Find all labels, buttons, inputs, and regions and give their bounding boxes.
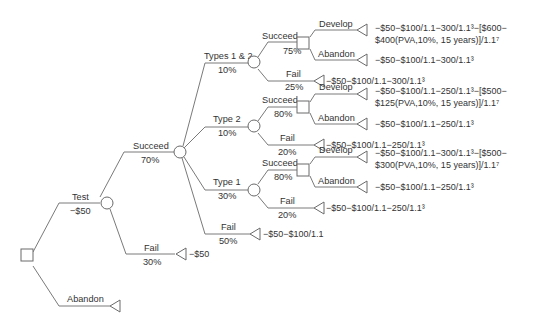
payoff-t1-develop-2: $300(PVA,10%, 15 years)]/1.1⁷: [375, 160, 499, 170]
decision-square-icon: [297, 164, 309, 176]
branch-prob-succeed-t1: 80%: [274, 172, 292, 182]
terminal-triangle-icon: [357, 54, 367, 66]
branch-prob-types-1-2: 10%: [218, 65, 236, 75]
decision-square-icon: [297, 101, 309, 113]
terminal-triangle-icon: [314, 202, 324, 214]
payoff-test-fail: −$50: [189, 249, 209, 259]
branch-prob-fail-t12: 25%: [285, 82, 303, 92]
branch-prob-fail-t1: 20%: [278, 210, 296, 220]
succeed-chance-node: [174, 63, 250, 234]
branch-value-test-cost: −$50: [70, 206, 91, 216]
branch-prob-fail-t2: 20%: [278, 147, 296, 157]
terminal-triangle-icon: [357, 24, 367, 36]
terminal-triangle-icon: [357, 181, 367, 193]
branch-label-develop-t2: Develop: [319, 82, 353, 92]
chance-circle-icon: [101, 197, 113, 209]
payoff-t2-abandon: −$50−$100/1.1−250/1.1³: [375, 119, 474, 129]
branch-label-fail-t1: Fail: [280, 196, 295, 206]
branch-label-types-1-2: Types 1 & 2: [204, 51, 253, 61]
branch-label-succeed-t2: Succeed: [262, 95, 298, 105]
branch-label-abandon-root: Abandon: [67, 294, 104, 304]
branch-label-fail-test: Fail: [144, 243, 159, 253]
branch-label-fail-type: Fail: [221, 222, 236, 232]
branch-label-abandon-t2: Abandon: [318, 113, 355, 123]
branch-label-type-2: Type 2: [213, 114, 241, 124]
chance-circle-icon: [248, 56, 260, 68]
payoff-t12-develop-2: $400(PVA,10%, 15 years)]/1.1⁷: [375, 35, 499, 45]
terminal-triangle-icon: [250, 228, 260, 240]
decision-square-icon: [21, 249, 33, 261]
branch-label-develop-t12: Develop: [319, 19, 353, 29]
decision-tree-diagram: Test −$50 Abandon Succeed 70% Fail 30% −…: [0, 0, 533, 333]
payoff-t12-abandon: −$50−$100/1.1−300/1.1³: [375, 55, 474, 65]
terminal-triangle-icon: [357, 118, 367, 130]
branch-prob-type-1: 30%: [218, 191, 236, 201]
terminal-triangle-icon: [357, 88, 367, 100]
branch-prob-fail-test: 30%: [143, 257, 161, 267]
branch-label-fail-t2: Fail: [280, 133, 295, 143]
chance-circle-icon: [174, 146, 186, 158]
payoff-t2-develop-2: $125(PVA,10%, 15 years)]/1.1⁷: [375, 98, 499, 108]
payoff-t1-fail: −$50−$100/1.1−250/1.1³: [326, 203, 425, 213]
branch-prob-fail-type: 50%: [219, 236, 237, 246]
terminal-triangle-icon: [176, 248, 186, 260]
branch-label-fail-t12: Fail: [286, 69, 301, 79]
terminal-triangle-icon: [357, 151, 367, 163]
payoff-t12-develop-1: −$50−$100/1.1−300/1.1³−[$600−: [375, 23, 507, 33]
payoff-type-fail: −$50−$100/1.1: [263, 229, 324, 239]
branch-label-succeed-test: Succeed: [133, 141, 169, 151]
branch-label-abandon-t1: Abandon: [318, 176, 355, 186]
terminal-triangle-icon: [110, 300, 120, 312]
branch-prob-type-2: 10%: [218, 128, 236, 138]
payoff-t2-develop-1: −$50−$100/1.1−250/1.1³−[$500−: [375, 86, 507, 96]
chance-circle-icon: [248, 184, 260, 196]
branch-label-succeed-t1: Succeed: [262, 158, 298, 168]
branch-prob-succeed-test: 70%: [141, 155, 159, 165]
branch-prob-succeed-t2: 80%: [274, 109, 292, 119]
branch-label-succeed-t12: Succeed: [262, 31, 298, 41]
chance-circle-icon: [248, 120, 260, 132]
decision-square-icon: [297, 37, 309, 49]
branch-label-develop-t1: Develop: [319, 145, 353, 155]
branch-label-type-1: Type 1: [213, 177, 241, 187]
payoff-t1-develop-1: −$50−$100/1.1−300/1.1³−[$500−: [375, 148, 507, 158]
root-decision-node: [21, 203, 110, 306]
payoff-t1-abandon: −$50−$100/1.1−250/1.1³: [375, 182, 474, 192]
branch-label-test: Test: [72, 192, 89, 202]
branch-label-abandon-t12: Abandon: [318, 49, 355, 59]
test-chance-node: [100, 152, 175, 254]
